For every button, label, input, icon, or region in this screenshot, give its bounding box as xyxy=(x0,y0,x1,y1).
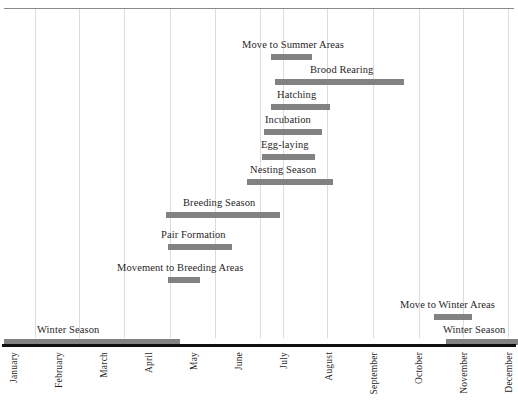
task-label: Movement to Breeding Areas xyxy=(117,262,244,274)
task-label: Move to Summer Areas xyxy=(242,39,344,51)
task-row: Breeding Season xyxy=(0,188,518,218)
month-label-february: February xyxy=(54,352,64,388)
task-label: Incubation xyxy=(265,114,311,126)
gantt-chart: Move to Summer AreasBrood RearingHatchin… xyxy=(0,0,518,406)
task-row: Movement to Breeding Areas xyxy=(0,253,518,283)
month-label-november: November xyxy=(459,352,469,394)
month-label-january: January xyxy=(9,352,19,383)
task-row: Nesting Season xyxy=(0,155,518,185)
task-label: Nesting Season xyxy=(250,164,316,176)
task-bar xyxy=(168,277,200,283)
task-label: Egg-laying xyxy=(261,139,309,151)
task-row: Winter Season xyxy=(0,315,518,345)
task-label: Winter Season xyxy=(37,324,99,336)
plot-area: Move to Summer AreasBrood RearingHatchin… xyxy=(0,8,518,338)
month-label-september: September xyxy=(369,352,379,394)
x-axis-line xyxy=(2,344,516,347)
month-label-june: June xyxy=(234,352,244,370)
month-label-december: December xyxy=(504,352,514,393)
task-bar xyxy=(168,244,232,250)
task-row: Pair Formation xyxy=(0,220,518,250)
task-label: Brood Rearing xyxy=(310,64,373,76)
x-axis-tick-labels: JanuaryFebruaryMarchAprilMayJuneJulyAugu… xyxy=(0,350,518,406)
plot-top-rule xyxy=(4,8,514,9)
task-label: Pair Formation xyxy=(161,229,226,241)
month-label-may: May xyxy=(189,352,199,370)
month-label-october: October xyxy=(414,352,424,384)
month-label-march: March xyxy=(99,352,109,378)
month-label-july: July xyxy=(279,352,289,369)
month-label-april: April xyxy=(144,352,154,373)
month-label-august: August xyxy=(324,352,334,381)
task-label: Breeding Season xyxy=(183,197,255,209)
task-label: Move to Winter Areas xyxy=(400,299,495,311)
task-bar xyxy=(166,212,280,218)
task-label: Hatching xyxy=(277,89,316,101)
task-bar xyxy=(247,179,333,185)
